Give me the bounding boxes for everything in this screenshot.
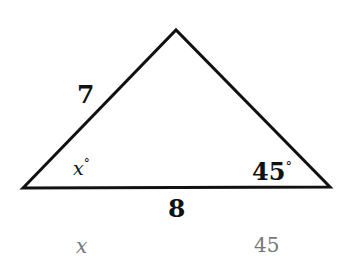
angle-value: 45 xyxy=(252,157,285,186)
side-label-left: 7 xyxy=(77,82,94,107)
triangle-figure xyxy=(0,0,359,272)
degree-symbol: ° xyxy=(84,157,90,171)
angle-label-left: x° xyxy=(73,158,90,178)
angle-variable: x xyxy=(73,157,84,179)
angle-label-right: 45° xyxy=(252,160,292,184)
side-label-base: 8 xyxy=(168,196,185,221)
footer-label-left: x xyxy=(76,236,87,256)
degree-symbol: ° xyxy=(285,159,292,174)
footer-label-right: 45 xyxy=(254,235,279,255)
